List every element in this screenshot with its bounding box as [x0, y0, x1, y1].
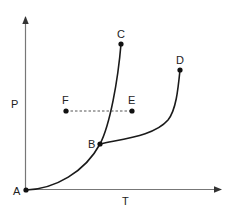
label-a: A [13, 185, 21, 197]
x-axis-label: T [122, 195, 129, 207]
phase-diagram: P T A B C D E F [0, 0, 240, 213]
label-c: C [117, 28, 125, 40]
point-e [129, 108, 134, 113]
point-b [97, 141, 102, 146]
y-axis-label: P [11, 98, 18, 110]
point-f [63, 108, 68, 113]
point-c [118, 41, 123, 46]
label-e: E [128, 94, 135, 106]
label-f: F [62, 94, 69, 106]
curve-b-c [100, 44, 121, 144]
label-b: B [88, 138, 95, 150]
label-d: D [176, 54, 184, 66]
point-d [177, 67, 182, 72]
curve-a-b [26, 144, 100, 190]
point-a [23, 187, 28, 192]
